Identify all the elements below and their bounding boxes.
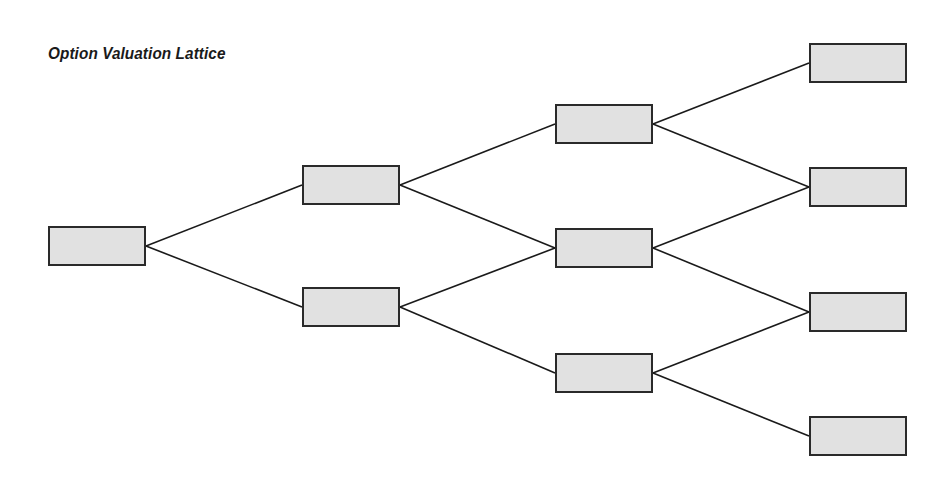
lattice-node-n3d	[809, 416, 907, 456]
lattice-node-n2m	[555, 228, 653, 268]
lattice-node-n3b	[809, 167, 907, 207]
edge-n0-n1d	[146, 246, 302, 307]
edge-n1d-n2d	[400, 307, 555, 373]
edge-n1u-n2u	[400, 124, 555, 185]
edge-n2u-n3b	[653, 124, 809, 187]
edge-n0-n1u	[146, 185, 302, 246]
lattice-node-n2u	[555, 104, 653, 144]
edge-n2d-n3d	[653, 373, 809, 436]
lattice-node-n0	[48, 226, 146, 266]
edge-n2d-n3c	[653, 312, 809, 373]
lattice-node-n1u	[302, 165, 400, 205]
edge-n1u-n2m	[400, 185, 555, 248]
edge-n2u-n3a	[653, 63, 809, 124]
edge-n2m-n3c	[653, 248, 809, 312]
edge-n1d-n2m	[400, 248, 555, 307]
lattice-node-n1d	[302, 287, 400, 327]
edge-n2m-n3b	[653, 187, 809, 248]
lattice-node-n2d	[555, 353, 653, 393]
lattice-node-n3a	[809, 43, 907, 83]
lattice-node-n3c	[809, 292, 907, 332]
